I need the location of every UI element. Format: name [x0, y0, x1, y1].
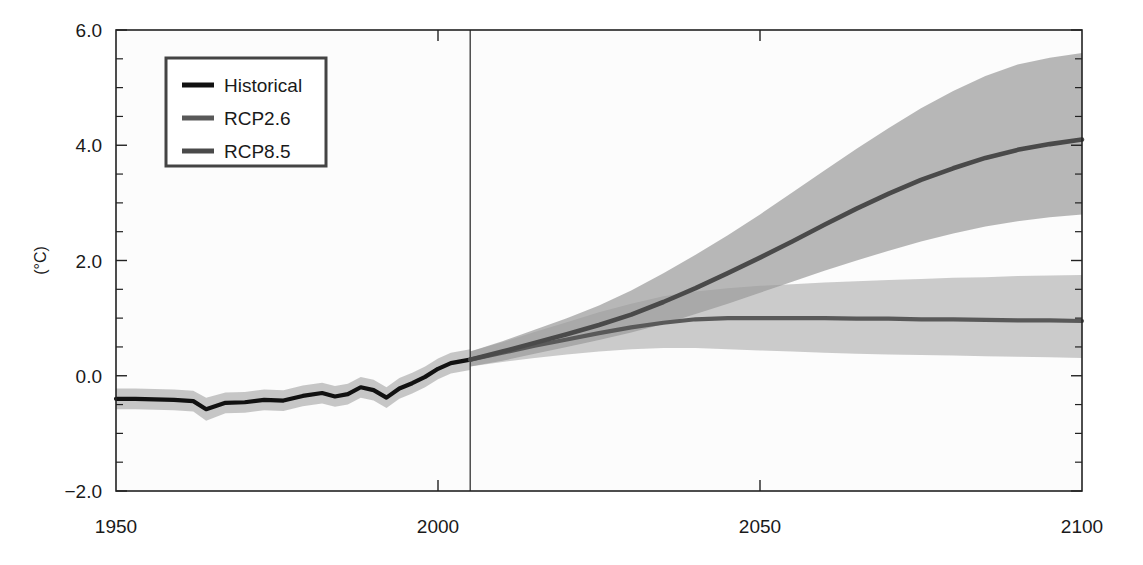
legend-label-rcp8-5[interactable]: RCP8.5 [224, 141, 291, 162]
y-tick-label: −2.0 [64, 481, 102, 502]
temperature-anomaly-chart: −2.00.02.04.06.01950200020502100 (°C) Hi… [0, 0, 1143, 565]
y-tick-label: 4.0 [76, 135, 102, 156]
chart-legend[interactable]: HistoricalRCP2.6RCP8.5 [166, 58, 326, 166]
y-tick-label: 0.0 [76, 366, 102, 387]
y-tick-label: 2.0 [76, 251, 102, 272]
climate-projection-figure: −2.00.02.04.06.01950200020502100 (°C) Hi… [0, 0, 1143, 565]
y-axis-title: (°C) [32, 246, 49, 275]
x-tick-label: 2100 [1061, 516, 1103, 537]
y-tick-label: 6.0 [76, 20, 102, 41]
legend-label-historical[interactable]: Historical [224, 75, 302, 96]
legend-label-rcp2-6[interactable]: RCP2.6 [224, 108, 291, 129]
x-tick-label: 2000 [417, 516, 459, 537]
y-axis-title-text: (°C) [32, 246, 49, 275]
x-tick-label: 1950 [95, 516, 137, 537]
x-tick-label: 2050 [739, 516, 781, 537]
